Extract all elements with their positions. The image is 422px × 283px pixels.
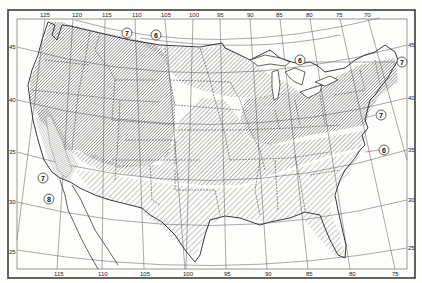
latitude-labels-right: 45 40 35 30 25 xyxy=(408,42,415,251)
svg-text:7: 7 xyxy=(379,112,383,119)
lon-label-120: 120 xyxy=(72,12,83,18)
zone-marker-7-newengland: 7 xyxy=(397,57,407,67)
lon-bottom-80: 80 xyxy=(349,271,356,277)
zone-marker-7-north: 7 xyxy=(122,28,132,38)
lat-right-25: 25 xyxy=(408,245,415,251)
lon-bottom-90: 90 xyxy=(265,271,272,277)
zone-marker-6-greatlakes: 6 xyxy=(295,55,305,65)
lon-bottom-110: 110 xyxy=(98,271,108,277)
zone-marker-7-california: 7 xyxy=(38,173,48,183)
lon-bottom-115: 115 xyxy=(54,271,64,277)
lon-bottom-105: 105 xyxy=(140,271,151,277)
lat-right-35: 35 xyxy=(408,147,415,153)
lon-bottom-75: 75 xyxy=(392,271,399,277)
lat-right-45: 45 xyxy=(408,42,415,48)
lat-right-40: 40 xyxy=(408,95,415,101)
lon-bottom-85: 85 xyxy=(306,271,313,277)
us-zone-map: 125 120 115 110 105 100 95 90 85 80 75 7… xyxy=(0,0,422,283)
lon-label-105: 105 xyxy=(161,12,172,18)
svg-text:8: 8 xyxy=(47,196,51,203)
lon-label-125: 125 xyxy=(40,12,51,18)
lon-label-95: 95 xyxy=(217,12,224,18)
svg-text:6: 6 xyxy=(154,32,158,39)
longitude-labels-top: 125 120 115 110 105 100 95 90 85 80 75 7… xyxy=(40,12,371,18)
map-container: 125 120 115 110 105 100 95 90 85 80 75 7… xyxy=(0,0,422,283)
lat-left-30: 30 xyxy=(9,199,16,205)
zone-marker-6-north: 6 xyxy=(151,30,161,40)
lon-bottom-100: 100 xyxy=(183,271,194,277)
latitude-labels-left: 45 40 35 30 25 xyxy=(9,44,16,255)
zone-marker-6-eastcoast: 6 xyxy=(379,145,389,155)
svg-text:7: 7 xyxy=(400,59,404,66)
lat-left-35: 35 xyxy=(9,149,16,155)
svg-text:7: 7 xyxy=(41,175,45,182)
lon-label-90: 90 xyxy=(247,12,254,18)
lat-right-30: 30 xyxy=(408,197,415,203)
lat-left-25: 25 xyxy=(9,249,16,255)
lon-label-70: 70 xyxy=(364,12,371,18)
lat-left-45: 45 xyxy=(9,44,16,50)
lon-label-80: 80 xyxy=(306,12,313,18)
longitude-labels-bottom: 115 110 105 100 95 90 85 80 75 xyxy=(54,271,399,277)
zone-marker-7-eastcoast: 7 xyxy=(376,110,386,120)
lon-label-85: 85 xyxy=(276,12,283,18)
zone-marker-8-california: 8 xyxy=(44,194,54,204)
svg-text:6: 6 xyxy=(382,147,386,154)
svg-text:6: 6 xyxy=(298,57,302,64)
lon-label-75: 75 xyxy=(336,12,343,18)
lat-left-40: 40 xyxy=(9,97,16,103)
lon-bottom-95: 95 xyxy=(224,271,231,277)
svg-text:7: 7 xyxy=(125,30,129,37)
lon-label-115: 115 xyxy=(102,12,112,18)
lon-label-110: 110 xyxy=(132,12,142,18)
lon-label-100: 100 xyxy=(189,12,200,18)
